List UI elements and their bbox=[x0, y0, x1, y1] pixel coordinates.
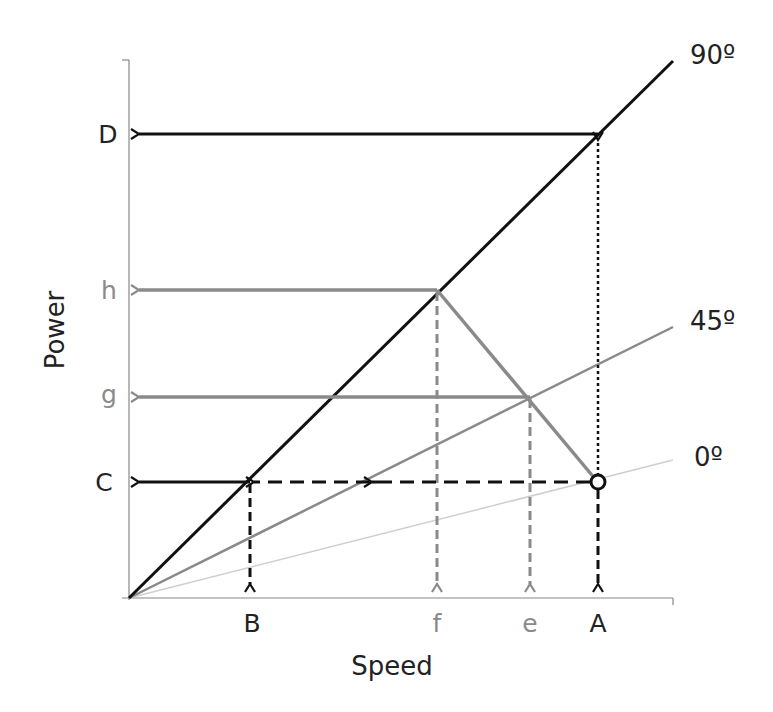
y-tick-d: D bbox=[98, 120, 117, 149]
90-degree-line bbox=[129, 61, 673, 598]
a-operating-point bbox=[591, 475, 605, 489]
x-axis-label: Speed bbox=[351, 651, 433, 681]
y-axis-label: Power bbox=[40, 290, 70, 369]
h-to-a-diagonal bbox=[437, 290, 596, 480]
x-tick-a: A bbox=[589, 609, 606, 638]
y-tick-g: g bbox=[101, 380, 117, 409]
power-speed-diagram: 90º 45º 0º D h g C B f e A Speed Power bbox=[0, 0, 773, 712]
label-45-degrees: 45º bbox=[690, 306, 735, 336]
y-tick-c: C bbox=[95, 468, 112, 497]
x-tick-b: B bbox=[243, 609, 260, 638]
gray-construction bbox=[139, 290, 596, 584]
x-tick-f: f bbox=[433, 609, 443, 638]
label-0-degrees: 0º bbox=[694, 442, 723, 472]
y-tick-h: h bbox=[101, 276, 117, 305]
label-90-degrees: 90º bbox=[690, 40, 735, 70]
45-degree-line bbox=[129, 327, 673, 598]
x-tick-e: e bbox=[522, 609, 537, 638]
angle-lines bbox=[129, 61, 673, 598]
